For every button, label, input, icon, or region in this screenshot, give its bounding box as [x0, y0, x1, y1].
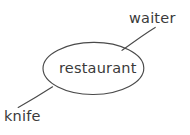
mind-map-diagram: restaurant waiter knife: [0, 0, 190, 135]
branch-label-waiter: waiter: [129, 9, 176, 28]
connector-line-waiter: [122, 27, 155, 50]
branch-label-knife: knife: [4, 107, 41, 126]
connector-line-knife: [18, 87, 52, 108]
central-node-label: restaurant: [59, 59, 137, 78]
